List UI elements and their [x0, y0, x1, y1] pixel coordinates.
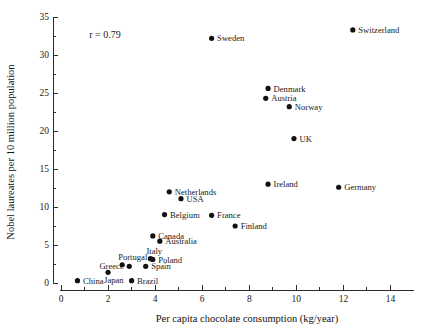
point-label: Austria — [271, 93, 296, 103]
point-marker — [350, 27, 355, 32]
x-tick-label: 8 — [247, 294, 252, 304]
point-marker — [127, 264, 132, 269]
point-marker — [105, 270, 110, 275]
data-point: France — [209, 210, 241, 220]
point-label: Portugal — [118, 252, 148, 262]
point-label: Denmark — [274, 84, 307, 94]
point-marker — [291, 136, 296, 141]
x-tick-label: 6 — [200, 294, 205, 304]
point-marker — [209, 213, 214, 218]
data-point: Spain — [143, 261, 171, 271]
point-marker — [178, 196, 183, 201]
point-label: Greece — [99, 261, 124, 271]
y-axis-title: Nobel laureates per 10 million populatio… — [5, 64, 16, 240]
point-marker — [263, 96, 268, 101]
x-tick-label: 14 — [386, 294, 396, 304]
point-label: Brazil — [137, 276, 159, 286]
point-label: Belgium — [170, 210, 200, 220]
y-tick-label: 20 — [40, 126, 50, 136]
y-tick-label: 25 — [40, 88, 50, 98]
point-marker — [143, 264, 148, 269]
data-point: Denmark — [265, 84, 306, 94]
y-axis: 05101520253035 — [40, 12, 59, 288]
point-label: Norway — [295, 102, 323, 112]
data-point: Japan — [104, 270, 124, 286]
point-marker — [162, 212, 167, 217]
x-tick-label: 12 — [339, 294, 349, 304]
point-marker — [265, 182, 270, 187]
point-marker — [209, 36, 214, 41]
point-label: Sweden — [217, 33, 245, 43]
data-point: China — [75, 276, 104, 286]
point-label: UK — [299, 134, 312, 144]
point-marker — [157, 239, 162, 244]
y-tick-label: 35 — [40, 12, 50, 22]
annotations-layer: r = 0.79 — [89, 29, 120, 40]
point-label: Japan — [104, 275, 124, 285]
data-point: Sweden — [209, 33, 245, 43]
y-tick-label: 30 — [40, 50, 50, 60]
data-point: UK — [291, 134, 312, 144]
point-marker — [129, 278, 134, 283]
point-label: Australia — [165, 236, 197, 246]
x-tick-label: 10 — [292, 294, 302, 304]
point-label: Finland — [241, 221, 268, 231]
chart-canvas: 02468101214 05101520253035 SwitzerlandSw… — [0, 0, 434, 335]
point-marker — [75, 278, 80, 283]
correlation-annotation: r = 0.79 — [89, 29, 120, 40]
x-axis: 02468101214 — [59, 285, 414, 304]
point-label: Spain — [151, 261, 171, 271]
point-marker — [150, 233, 155, 238]
data-point: Finland — [233, 221, 268, 231]
y-tick-label: 5 — [44, 240, 49, 250]
point-marker — [233, 223, 238, 228]
data-point: Austria — [263, 93, 297, 103]
point-label: Switzerland — [358, 25, 400, 35]
data-point: Switzerland — [350, 25, 400, 35]
data-points-layer: SwitzerlandSwedenDenmarkAustriaNorwayUKI… — [75, 25, 400, 286]
x-tick-label: 4 — [153, 294, 158, 304]
x-axis-title: Per capita chocolate consumption (kg/yea… — [156, 313, 339, 325]
point-marker — [265, 86, 270, 91]
point-label: China — [83, 276, 104, 286]
data-point: Greece — [99, 261, 131, 271]
y-tick-label: 0 — [44, 278, 49, 288]
point-marker — [167, 189, 172, 194]
y-tick-label: 10 — [40, 202, 50, 212]
data-point: Ireland — [265, 179, 298, 189]
x-tick-label: 2 — [106, 294, 111, 304]
point-marker — [336, 185, 341, 190]
y-tick-label: 15 — [40, 164, 50, 174]
point-marker — [287, 104, 292, 109]
x-tick-label: 0 — [59, 294, 64, 304]
data-point: Brazil — [129, 276, 159, 286]
point-label: France — [217, 210, 241, 220]
data-point: Germany — [336, 182, 377, 192]
point-label: Ireland — [274, 179, 299, 189]
scatter-plot-figure: 02468101214 05101520253035 SwitzerlandSw… — [0, 0, 434, 335]
point-label: Germany — [344, 182, 377, 192]
data-point: Belgium — [162, 210, 200, 220]
point-label: USA — [187, 194, 205, 204]
